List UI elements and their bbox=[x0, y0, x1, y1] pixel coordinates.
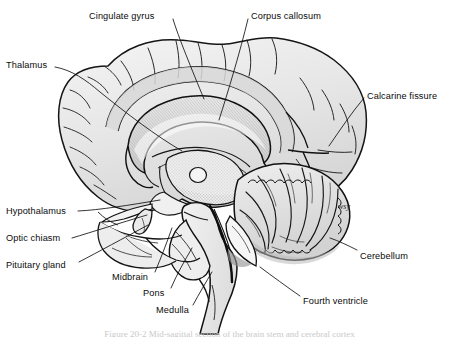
label-optic-chiasm: Optic chiasm bbox=[6, 233, 60, 244]
figure-caption: Figure 20-2 Mid-sagittal section of the … bbox=[0, 329, 459, 337]
label-corpus-callosum: Corpus callosum bbox=[251, 11, 321, 22]
leader-fourth-ventricle bbox=[260, 267, 300, 296]
label-midbrain: Midbrain bbox=[112, 272, 148, 283]
label-thalamus: Thalamus bbox=[6, 60, 47, 71]
label-pituitary-gland: Pituitary gland bbox=[6, 260, 66, 271]
label-medulla: Medulla bbox=[156, 305, 189, 316]
label-calcarine-fissure: Calcarine fissure bbox=[367, 91, 437, 102]
label-fourth-ventricle: Fourth ventricle bbox=[303, 296, 368, 307]
label-cingulate-gyrus: Cingulate gyrus bbox=[89, 11, 154, 22]
artist-signature: wsy bbox=[338, 202, 350, 211]
brain-figure: Cingulate gyrus Corpus callosum Thalamus… bbox=[0, 0, 459, 337]
label-pons: Pons bbox=[143, 288, 164, 299]
brain-illustration bbox=[0, 0, 459, 337]
label-hypothalamus: Hypothalamus bbox=[6, 206, 66, 217]
label-cerebellum: Cerebellum bbox=[360, 251, 408, 262]
